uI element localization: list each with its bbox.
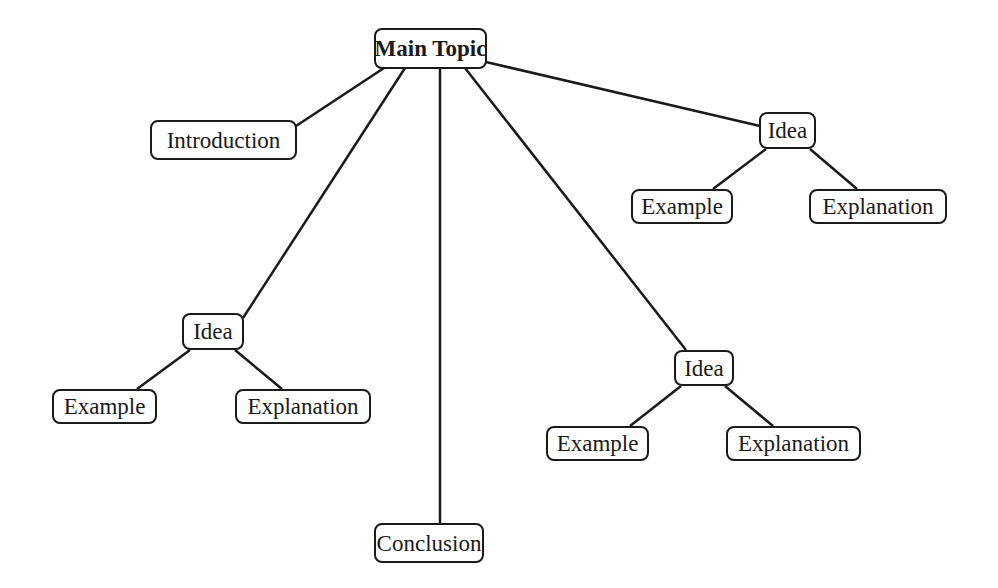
- node-idea_r: Idea: [674, 350, 734, 386]
- node-idea_tr: Idea: [759, 112, 816, 149]
- edge-idea_r-to-expl_r: [725, 386, 773, 426]
- connector-lines: [0, 0, 998, 588]
- node-ex_l: Example: [52, 389, 157, 424]
- edge-main-to-intro: [296, 68, 384, 126]
- node-intro: Introduction: [150, 120, 297, 160]
- mind-map-canvas: Main TopicIntroductionIdeaExampleExplana…: [0, 0, 998, 588]
- node-expl_tr: Explanation: [809, 189, 947, 224]
- edge-main-to-idea_tr: [486, 62, 760, 126]
- edge-main-to-idea_l: [243, 68, 405, 318]
- node-idea_l: Idea: [182, 313, 244, 350]
- edge-idea_l-to-ex_l: [137, 350, 190, 389]
- node-ex_r: Example: [546, 426, 649, 461]
- node-concl: Conclusion: [374, 523, 484, 563]
- edge-idea_tr-to-ex_tr: [713, 149, 766, 189]
- node-expl_l: Explanation: [235, 389, 371, 424]
- node-ex_tr: Example: [631, 189, 733, 224]
- node-main: Main Topic: [374, 28, 487, 69]
- edge-idea_l-to-expl_l: [235, 350, 282, 389]
- node-expl_r: Explanation: [726, 426, 861, 461]
- edge-idea_r-to-ex_r: [630, 386, 681, 426]
- edge-idea_tr-to-expl_tr: [810, 149, 857, 189]
